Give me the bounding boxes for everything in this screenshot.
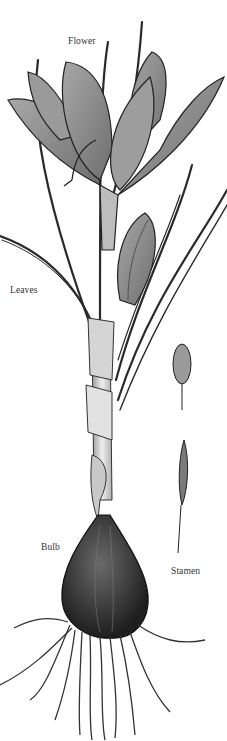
bulb	[62, 515, 148, 638]
crocus-illustration	[0, 0, 227, 741]
label-flower: Flower	[68, 36, 96, 46]
label-bulb: Bulb	[41, 542, 60, 552]
label-stamen: Stamen	[171, 566, 200, 576]
flower-bud	[118, 213, 156, 305]
stamen-drawings	[173, 344, 191, 553]
stem	[86, 318, 114, 520]
label-leaves: Leaves	[10, 285, 38, 295]
